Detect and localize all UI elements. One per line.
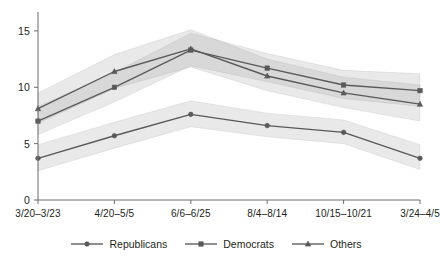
legend-marker-circle-icon <box>70 238 104 250</box>
y-tick-label-1: 5 <box>0 138 30 150</box>
legend-marker-circle <box>85 242 90 247</box>
chart-legend: RepublicansDemocratsOthers <box>0 238 432 250</box>
data-point-republicans-3 <box>265 123 270 128</box>
legend-item-democrats[interactable]: Democrats <box>184 238 274 250</box>
y-tick-label-3: 15 <box>0 25 30 37</box>
legend-label: Others <box>330 238 362 250</box>
x-tick-label-4: 10/15–10/21 <box>315 208 372 219</box>
legend-marker-triangle-icon <box>291 238 325 250</box>
legend-item-others[interactable]: Others <box>291 238 362 250</box>
confidence-bands-layer <box>38 30 420 171</box>
legend-label: Republicans <box>109 238 167 250</box>
data-point-republicans-1 <box>112 133 117 138</box>
x-tick-label-5: 3/24–4/5 <box>400 208 440 219</box>
data-point-democrats-4 <box>341 83 345 87</box>
y-tick-label-0: 0 <box>0 194 30 206</box>
x-tick-label-2: 6/6–6/25 <box>171 208 211 219</box>
x-tick-label-3: 8/4–8/14 <box>247 208 287 219</box>
data-point-democrats-3 <box>265 66 269 70</box>
legend-marker-square <box>199 242 203 246</box>
data-point-democrats-5 <box>418 88 422 92</box>
data-point-republicans-4 <box>341 130 346 135</box>
data-point-republicans-2 <box>189 112 194 117</box>
legend-label: Democrats <box>223 238 274 250</box>
data-point-democrats-1 <box>112 85 116 89</box>
legend-marker-square-icon <box>184 238 218 250</box>
x-tick-label-0: 3/20–3/23 <box>15 208 60 219</box>
data-point-republicans-5 <box>418 156 423 161</box>
x-tick-label-1: 4/20–5/5 <box>95 208 135 219</box>
y-tick-label-2: 10 <box>0 81 30 93</box>
legend-item-republicans[interactable]: Republicans <box>70 238 167 250</box>
